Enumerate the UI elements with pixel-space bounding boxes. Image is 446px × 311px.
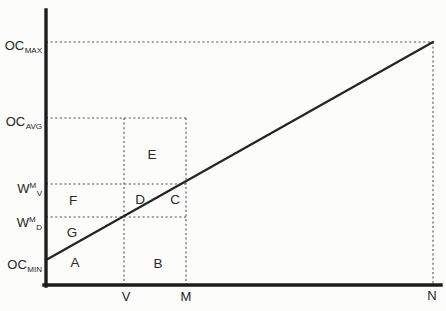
oc-max-base: OC	[5, 38, 25, 53]
region-label-b: B	[147, 256, 169, 271]
y-axis-label-wmv: WMV	[0, 178, 42, 201]
region-label-g: G	[61, 225, 83, 240]
y-axis-label-wmd: WMD	[0, 212, 42, 235]
oc-avg-sub: AVG	[26, 122, 42, 131]
y-axis-label-oc-min: OCMIN	[0, 257, 42, 277]
oc-min-base: OC	[7, 257, 27, 272]
wmd-sub: D	[36, 223, 42, 232]
oc-min-sub: MIN	[27, 265, 42, 274]
wmd-sup: M	[29, 215, 36, 224]
region-label-d: D	[129, 192, 151, 207]
region-label-a: A	[64, 255, 86, 270]
y-axis-label-oc-avg: OCAVG	[0, 114, 42, 134]
wmd-base: W	[17, 215, 29, 230]
wmv-sup: M	[29, 181, 36, 190]
region-label-c: C	[164, 192, 186, 207]
y-axis-label-oc-max: OCMAX	[0, 38, 42, 58]
x-axis-label-n: N	[421, 288, 443, 303]
x-axis-label-m: M	[175, 289, 197, 304]
oc-max-sub: MAX	[25, 46, 42, 55]
diagonal-line	[46, 42, 433, 260]
region-label-f: F	[62, 193, 84, 208]
wmv-sub: V	[37, 189, 42, 198]
oc-avg-base: OC	[6, 114, 26, 129]
wmv-base: W	[17, 181, 29, 196]
x-axis-label-v: V	[115, 289, 137, 304]
region-label-e: E	[141, 147, 163, 162]
diagram-canvas: OCMAX OCAVG WMV WMD OCMIN V M N A B C D …	[0, 0, 446, 311]
